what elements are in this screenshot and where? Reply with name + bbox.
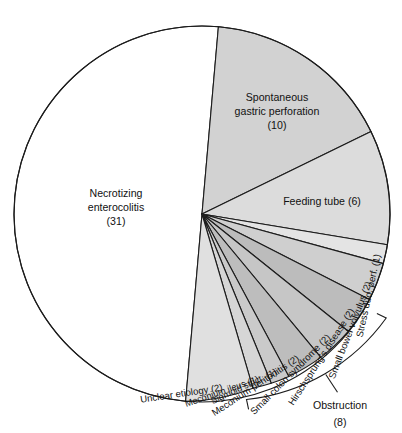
label-obstruction-value: (8): [334, 416, 347, 428]
label-necrotizing-enterocolitis-value: (31): [107, 215, 126, 227]
label-spontaneous-gastric-perforation-value: (10): [268, 119, 287, 131]
label-spontaneous-gastric-perforation-line2: gastric perforation: [235, 105, 320, 117]
label-spontaneous-gastric-perforation-line1: Spontaneous: [246, 91, 308, 103]
label-necrotizing-enterocolitis-line2: enterocolitis: [88, 201, 145, 213]
pie-chart-figure: Necrotizing enterocolitis (31) Spontaneo…: [0, 0, 402, 433]
pie-chart-svg: Necrotizing enterocolitis (31) Spontaneo…: [0, 0, 402, 433]
obstruction-annotation: Obstruction (8): [313, 399, 367, 428]
label-obstruction-line1: Obstruction: [313, 399, 367, 411]
label-feeding-tube: Feeding tube (6): [283, 195, 361, 207]
label-necrotizing-enterocolitis-line1: Necrotizing: [90, 187, 143, 199]
slice-necrotizing-enterocolitis[interactable]: [14, 26, 218, 401]
